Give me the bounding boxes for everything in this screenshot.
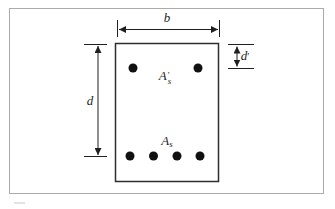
rebar-dot [149,152,158,161]
figure-canvas: b d d′ A′s As [0,0,335,209]
rebar-dot [194,64,203,73]
tension-steel-label: As [161,134,172,147]
tension-steel-base: A [161,133,169,148]
rebar-dot [196,152,205,161]
compression-steel-label: A′s [159,69,171,85]
subscript-s: s [168,78,172,85]
prime-mark: ′ [247,51,249,62]
dim-b-text: b [164,10,171,25]
dim-d-prime-label: d′ [241,49,250,63]
rebar-dot [173,152,182,161]
dim-b-label: b [164,11,171,24]
rebar-dot [129,64,138,73]
subscript-s: s [169,139,173,149]
dim-d-label: d [87,94,94,107]
dim-d-text: d [87,93,94,108]
compression-steel-base: A [159,68,167,83]
compression-steel-marks: ′s [168,72,172,85]
rebar-dot [126,152,135,161]
beam-diagram [0,0,335,209]
